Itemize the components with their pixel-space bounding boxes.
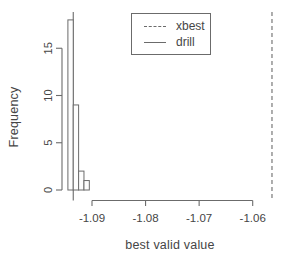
- x-tick-label: -1.09: [79, 212, 105, 224]
- legend-label-xbest: xbest: [176, 20, 205, 32]
- y-axis-title: Frequency: [7, 87, 21, 148]
- histogram-bar: [84, 181, 89, 190]
- histogram-bar: [68, 20, 73, 190]
- legend-entry-drill: drill: [144, 35, 210, 49]
- y-tick-label: 5: [42, 140, 54, 146]
- legend-entry-xbest: xbest: [144, 19, 210, 33]
- y-tick-label: 10: [42, 89, 54, 101]
- x-tick-label: -1.07: [186, 212, 212, 224]
- histogram-figure: 051015-1.09-1.08-1.07-1.06 best valid va…: [0, 0, 285, 259]
- x-tick-label: -1.08: [132, 212, 158, 224]
- histogram-bar: [79, 171, 84, 190]
- x-tick-label: -1.06: [240, 212, 266, 224]
- solid-line-sample: [144, 42, 166, 43]
- y-tick-label: 0: [42, 187, 54, 193]
- histogram-bar: [73, 105, 78, 190]
- legend: xbest drill: [131, 13, 211, 55]
- legend-label-drill: drill: [176, 36, 195, 48]
- dashed-line-sample: [144, 26, 166, 27]
- x-axis-title: best valid value: [62, 238, 278, 252]
- y-tick-label: 15: [42, 42, 54, 54]
